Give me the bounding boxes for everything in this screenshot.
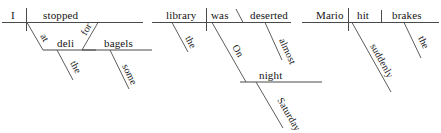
diagram-3-word-verb: hit [357,9,369,21]
diagram-1-word-subject: I [11,9,15,21]
diagram-2-word-modifier-saturday: Saturday [275,96,303,133]
diagram-3: Mario hit brakes suddenly the [302,8,439,92]
diagram-2-word-object-night: night [259,69,282,81]
diagram-2-word-subject: library [166,9,197,21]
diagram-1-word-verb: stopped [43,9,79,21]
diagram-3-word-object-brakes: brakes [392,9,422,21]
diagram-2-word-verb: was [211,9,229,21]
diagram-1: I stopped at deli the for bagels some [2,8,152,89]
diagram-3-word-article-the: the [416,34,432,51]
diagram-2-word-adverb-almost: almost [277,36,298,66]
diagram-1-word-prep-at: at [38,32,51,44]
diagram-3-word-subject: Mario [316,9,344,21]
diagram-1-word-object-bagels: bagels [104,37,133,49]
diagram-2-predicate-adjective-slant [236,9,243,23]
diagram-3-word-adverb-suddenly: suddenly [368,42,396,80]
diagram-1-word-object-deli: deli [57,37,74,49]
diagram-1-word-article-the: the [68,59,84,76]
diagram-2-word-predicate-adjective: deserted [250,9,288,21]
diagram-1-word-prep-for: for [78,21,94,37]
sentence-diagram-canvas: I stopped at deli the for bagels some li… [0,0,441,133]
diagram-2-word-prep-on: On [230,43,246,59]
diagram-1-word-determiner-some: some [120,62,140,87]
diagram-2: library was deserted the almost On night… [152,8,322,133]
